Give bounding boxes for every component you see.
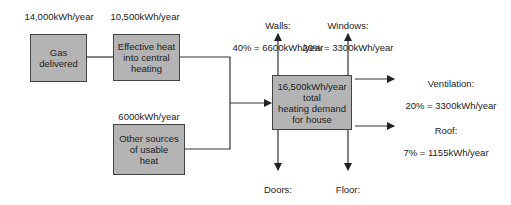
windows-name: Windows: — [298, 20, 398, 31]
ventilation-name: Ventilation: — [396, 78, 506, 89]
gas-delivered-text: Gas delivered — [39, 47, 78, 69]
other-sources-amount-label: 6000kWh/year — [104, 111, 194, 122]
gas-amount-label: 14,000kWh/year — [14, 11, 104, 22]
total-demand-text: 16,500kWh/year total heating demand for … — [277, 81, 346, 125]
other-sources-text: Other sources of usable heat — [119, 133, 179, 166]
floor-name: Floor: — [298, 184, 398, 195]
other-sources-box: Other sources of usable heat — [113, 124, 185, 175]
effective-heat-text: Effective heat into central heating — [118, 41, 175, 74]
windows-value: 20% = 3300kWh/year — [298, 42, 398, 53]
roof-loss-label: Roof: 7% = 1155kWh/year — [396, 114, 496, 169]
gas-delivered-box: Gas delivered — [30, 34, 87, 82]
heat-flow-diagram: 14,000kWh/year 10,500kWh/year 6000kWh/ye… — [0, 0, 511, 205]
floor-loss-label: Floor: 8% = 1320kWh/year — [298, 173, 398, 205]
roof-value: 7% = 1155kWh/year — [396, 147, 496, 158]
windows-loss-label: Windows: 20% = 3300kWh/year — [298, 9, 398, 64]
roof-name: Roof: — [396, 125, 496, 136]
total-demand-box: 16,500kWh/year total heating demand for … — [272, 75, 352, 130]
ventilation-value: 20% = 3300kWh/year — [396, 100, 506, 111]
effective-heat-amount-label: 10,500kWh/year — [100, 11, 190, 22]
effective-heat-box: Effective heat into central heating — [113, 34, 180, 81]
